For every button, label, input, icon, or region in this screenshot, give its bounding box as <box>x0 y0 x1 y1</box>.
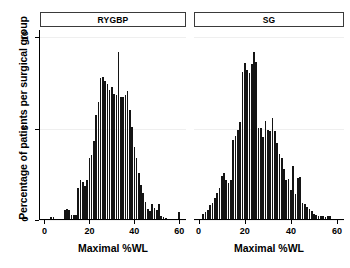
x-tick-mark <box>199 220 200 224</box>
panel-strip-label-sg: SG <box>263 15 276 25</box>
x-tick-mark <box>291 220 292 224</box>
panel-strip-rygbp: RYGBP <box>40 12 186 27</box>
x-tick-label: 0 <box>36 226 52 236</box>
panel-strip-label-rygbp: RYGBP <box>98 15 129 25</box>
y-tick-label: 0 <box>20 212 30 226</box>
x-tick-label: 60 <box>171 226 187 236</box>
x-tick-mark <box>134 220 135 224</box>
panel-strip-sg: SG <box>194 12 344 27</box>
plot-area-rygbp <box>40 30 186 220</box>
grid-line <box>194 220 344 221</box>
plot-area-sg <box>194 30 344 220</box>
x-tick-mark <box>89 220 90 224</box>
grid-line <box>40 37 186 38</box>
x-axis-title-rygbp: Maximal %WL <box>40 242 186 254</box>
y-tick-label: 10 <box>20 29 30 43</box>
x-axis-line-rygbp <box>40 219 186 220</box>
grid-line <box>40 220 186 221</box>
x-tick-mark <box>44 220 45 224</box>
panel-sg: SG <box>194 30 344 220</box>
x-axis-title-sg: Maximal %WL <box>194 242 344 254</box>
x-tick-mark <box>245 220 246 224</box>
y-tick-mark <box>35 129 39 130</box>
y-tick-label: 5 <box>20 121 30 135</box>
grid-line <box>194 129 344 130</box>
grid-line <box>194 37 344 38</box>
y-tick-mark <box>35 220 39 221</box>
x-tick-mark <box>337 220 338 224</box>
x-tick-mark <box>179 220 180 224</box>
x-tick-label: 40 <box>283 226 299 236</box>
x-tick-label: 40 <box>126 226 142 236</box>
x-tick-label: 20 <box>81 226 97 236</box>
x-tick-label: 60 <box>329 226 345 236</box>
x-tick-label: 20 <box>237 226 253 236</box>
y-tick-mark <box>35 37 39 38</box>
x-axis-line-sg <box>194 219 344 220</box>
x-tick-label: 0 <box>191 226 207 236</box>
panel-rygbp: RYGBP <box>40 30 186 220</box>
histogram-figure: Percentage of patients per surgical grou… <box>0 0 350 268</box>
